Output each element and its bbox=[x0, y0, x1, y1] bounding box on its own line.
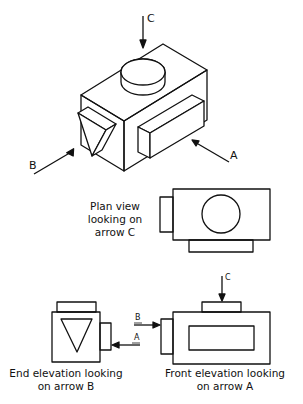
plan-caption-2: looking on bbox=[76, 213, 154, 225]
label-b-iso: B bbox=[29, 160, 37, 171]
end-caption-1: End elevation looking bbox=[2, 367, 130, 379]
front-caption-1: Front elevation looking bbox=[155, 367, 295, 379]
arrow-a-end bbox=[112, 342, 140, 348]
arrow-c-iso bbox=[140, 16, 146, 48]
plan-view bbox=[160, 189, 270, 252]
plan-caption-3: arrow C bbox=[76, 226, 154, 238]
label-c-front: C bbox=[225, 274, 231, 282]
arrow-b-iso bbox=[34, 149, 77, 174]
end-caption-2: on arrow B bbox=[2, 380, 130, 392]
end-elevation-view bbox=[52, 302, 111, 362]
arrow-a-iso bbox=[192, 140, 229, 162]
label-a-end: A bbox=[134, 334, 139, 342]
plan-caption-1: Plan view bbox=[76, 200, 154, 212]
arrow-b-front bbox=[134, 322, 160, 328]
front-elevation-view bbox=[161, 302, 270, 364]
front-caption-2: on arrow A bbox=[155, 380, 295, 392]
label-c-iso: C bbox=[147, 13, 155, 24]
label-b-front: B bbox=[135, 314, 141, 322]
isometric-block bbox=[78, 44, 207, 171]
label-a-iso: A bbox=[230, 150, 238, 161]
